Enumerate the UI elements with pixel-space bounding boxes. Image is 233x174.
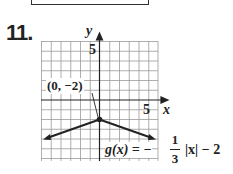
y-axis-label: y xyxy=(86,23,92,39)
point-leader-line xyxy=(92,93,98,117)
right-arrow-icon xyxy=(148,134,156,140)
equation-lhs: g(x) = − xyxy=(105,142,152,157)
x-axis-label: x xyxy=(163,102,170,118)
fraction: 1 3 xyxy=(170,132,180,167)
fraction-bar xyxy=(170,149,180,150)
left-arrow-icon xyxy=(43,134,51,140)
equation: g(x) = − xyxy=(105,142,152,158)
equation-rhs: |x| − 2 xyxy=(185,142,220,158)
fraction-denominator: 3 xyxy=(170,151,180,167)
x-tick-label: 5 xyxy=(143,102,150,118)
y-axis-arrow-icon xyxy=(97,33,103,40)
vertex-point xyxy=(97,117,103,123)
vertex-label: (0, −2) xyxy=(46,78,84,94)
fraction-numerator: 1 xyxy=(170,132,180,148)
y-tick-label: 5 xyxy=(89,42,96,58)
